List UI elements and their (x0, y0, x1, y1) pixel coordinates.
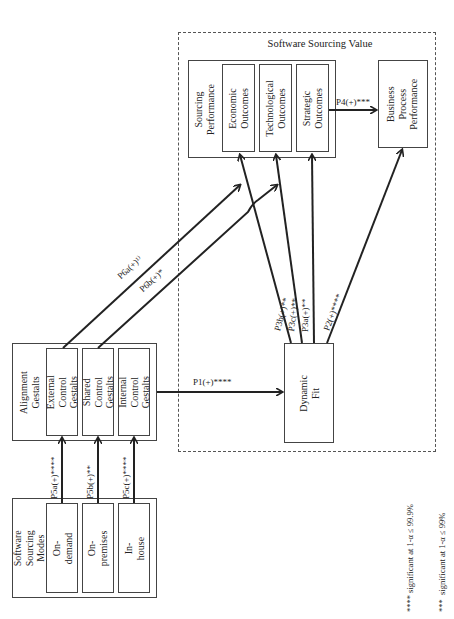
label-p3a: P3a(+)** (300, 298, 310, 332)
significance-legend: **** significant at 1-α ≤ 99.9% *** sign… (384, 504, 454, 612)
label-p5b: P5b(+)** (85, 465, 95, 499)
arrow-p6a (63, 185, 240, 348)
label-p5a: P5a(+)**** (49, 456, 59, 499)
legend-item: *** significant at 1-α ≤ 99% (437, 504, 448, 612)
arrow-p3a (312, 155, 314, 343)
legend-item: **** significant at 1-α ≤ 99.9% (405, 504, 416, 612)
arrow-p2 (327, 150, 402, 343)
label-p1: P1(+)**** (193, 377, 232, 387)
label-p4: P4(+)*** (336, 97, 370, 107)
label-p5c: P5c(+)**** (121, 456, 131, 499)
